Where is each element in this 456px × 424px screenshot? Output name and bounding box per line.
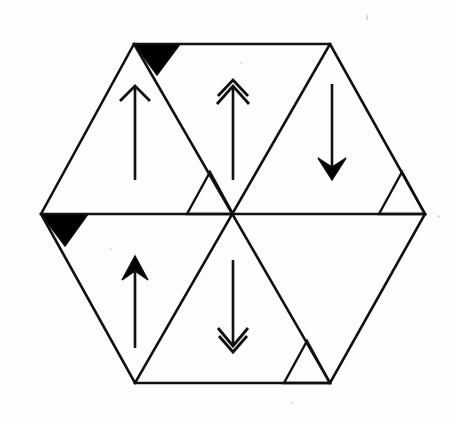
outline-triangle-bottom-right <box>284 341 330 383</box>
black-triangle-top-left <box>134 44 180 75</box>
sector-upper-left-arrow <box>120 86 150 180</box>
filled-corner-triangles <box>41 44 180 246</box>
sector-upper-center-arrow <box>217 80 249 180</box>
sector-lower-left-arrow <box>122 256 148 348</box>
hexagon-arrow-diagram <box>0 0 456 424</box>
outline-triangle-right-vertex <box>379 172 425 214</box>
figure-root <box>0 0 456 424</box>
outline-triangle-center-left <box>187 172 233 214</box>
sector-upper-right-arrow <box>318 84 346 180</box>
sector-lower-center-arrow <box>218 260 248 352</box>
black-triangle-left-vertex <box>41 214 88 246</box>
